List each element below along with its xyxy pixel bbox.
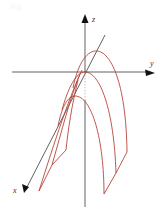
trace-back-parabola	[58, 96, 104, 194]
surface-diagram: vl.g z y x	[0, 0, 166, 217]
trace-left-edge-outer	[39, 70, 82, 191]
trace-middle-parabola	[62, 72, 116, 173]
trace-front-parabola	[73, 51, 127, 152]
y-axis: y	[12, 59, 155, 76]
y-axis-label: y	[149, 59, 154, 68]
x-axis-label: x	[12, 186, 17, 195]
y-axis-arrow-icon	[145, 70, 155, 77]
z-axis-arrow-icon	[82, 14, 89, 23]
z-axis: z	[82, 14, 97, 207]
x-axis: x	[12, 35, 105, 195]
surface-traces	[39, 51, 127, 194]
watermark-text: vl.g	[10, 3, 21, 11]
z-axis-label: z	[91, 15, 96, 24]
